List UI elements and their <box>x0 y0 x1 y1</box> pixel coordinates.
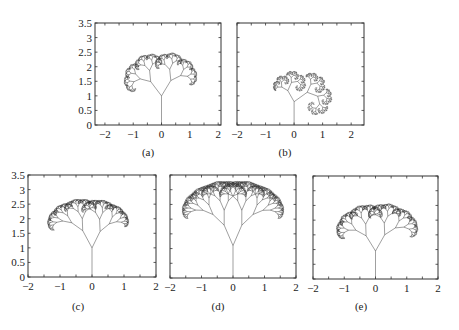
caption-b: (b) <box>270 146 300 158</box>
x-tick-label: −2 <box>307 282 319 294</box>
fractal-tree-e <box>336 204 418 279</box>
x-tick-label: 2 <box>435 282 441 294</box>
caption-c: (c) <box>63 300 93 312</box>
caption-e: (e) <box>346 300 376 312</box>
panel-e: −2−1012 <box>0 0 459 330</box>
x-tick-label: 0 <box>373 282 379 294</box>
caption-d: (d) <box>203 300 233 312</box>
caption-a: (a) <box>133 146 163 158</box>
x-tick-label: 1 <box>404 282 410 294</box>
x-tick-label: −1 <box>338 282 350 294</box>
